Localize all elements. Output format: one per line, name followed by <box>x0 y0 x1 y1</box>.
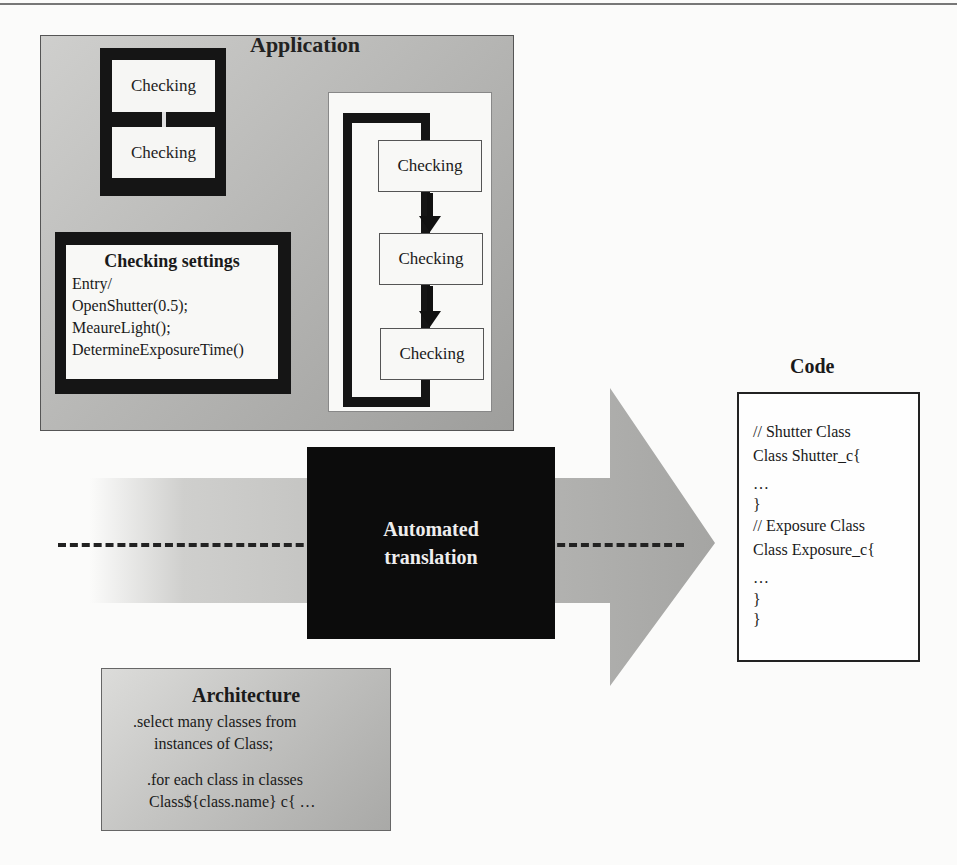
architecture-rule-line: .select many classes from <box>102 711 390 733</box>
architecture-title: Architecture <box>102 681 390 709</box>
code-line: … <box>753 472 918 496</box>
state-checking-top[interactable]: Checking <box>112 60 215 112</box>
code-line: … <box>753 566 918 590</box>
state-checking-bottom[interactable]: Checking <box>112 127 215 178</box>
flow-arrow-2-shaft <box>427 286 433 312</box>
down-arrow-icon <box>419 311 441 327</box>
code-title: Code <box>790 355 834 378</box>
code-line: } <box>753 496 918 514</box>
settings-line-entry: Entry/ <box>72 273 272 295</box>
state-pair-gap <box>162 112 166 127</box>
architecture-rule-line: instances of Class; <box>102 733 390 755</box>
down-arrow-icon <box>419 216 441 232</box>
settings-line-determine-exposure: DetermineExposureTime() <box>72 339 272 361</box>
architecture-rule-line: .for each class in classes <box>102 769 390 791</box>
code-line: } <box>753 590 918 610</box>
code-output-box: // Shutter Class Class Shutter_c{ … } //… <box>737 392 920 662</box>
flow-state-checking-2[interactable]: Checking <box>379 233 483 285</box>
checking-settings-panel[interactable]: Checking settings Entry/ OpenShutter(0.5… <box>66 245 278 379</box>
application-title: Application <box>250 32 360 58</box>
code-line: Class Shutter_c{ <box>753 444 918 468</box>
automated-translation-box: Automated translation <box>307 447 555 639</box>
top-rule-divider <box>0 3 957 5</box>
flow-state-checking-1[interactable]: Checking <box>378 140 482 192</box>
code-line: Class Exposure_c{ <box>753 538 918 562</box>
code-line: // Shutter Class <box>753 420 918 444</box>
translation-label-line2: translation <box>383 543 479 571</box>
architecture-rule-line: Class${class.name} c{ … <box>102 791 390 813</box>
architecture-box: Architecture .select many classes from i… <box>101 668 391 831</box>
checking-settings-title: Checking settings <box>72 249 272 273</box>
translation-label-line1: Automated <box>383 515 479 543</box>
settings-line-measure-light: MeaureLight(); <box>72 317 272 339</box>
settings-line-open-shutter: OpenShutter(0.5); <box>72 295 272 317</box>
flow-state-checking-3[interactable]: Checking <box>380 328 484 380</box>
code-line: } <box>753 610 918 630</box>
flow-arrow-1-shaft <box>427 193 433 217</box>
code-line: // Exposure Class <box>753 514 918 538</box>
